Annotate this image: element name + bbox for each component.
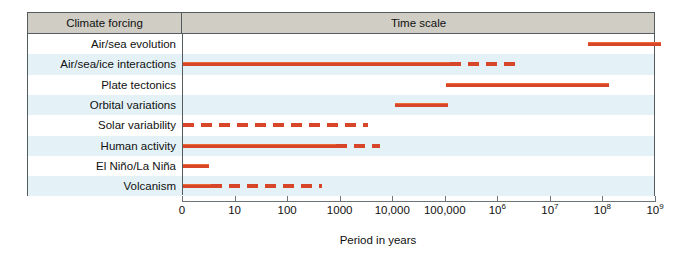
x-axis-title: Period in years [0, 234, 682, 246]
timescale-bar-solid [588, 42, 661, 46]
row-plot-area [183, 34, 654, 54]
table-row: Orbital variations [28, 95, 654, 115]
axis-tick-label: 109 [646, 204, 663, 216]
timescale-bar-solid [446, 83, 609, 87]
timescale-bar-solid [183, 184, 211, 188]
axis-tick-label: 106 [489, 204, 506, 216]
timescale-bar-solid [183, 164, 209, 168]
table-row: Solar variability [28, 115, 654, 135]
table-row: Plate tectonics [28, 75, 654, 95]
axis-tick [497, 196, 498, 202]
row-plot-area [183, 176, 654, 196]
table-row: Volcanism [28, 176, 654, 196]
row-plot-area [183, 95, 654, 115]
axis-tick [445, 196, 446, 202]
column-divider [182, 34, 183, 195]
timescale-bar-dashed [183, 123, 368, 127]
axis-tick [655, 196, 656, 202]
header-time-scale: Time scale [183, 13, 654, 33]
header-climate-forcing: Climate forcing [28, 13, 182, 33]
axis-tick-label: 100 [278, 204, 297, 216]
table-body: Air/sea evolutionAir/sea/ice interaction… [28, 34, 654, 195]
row-label: Volcanism [28, 176, 176, 196]
timescale-bar-dashed [211, 184, 322, 188]
axis-tick [392, 196, 393, 202]
row-label: Plate tectonics [28, 75, 176, 95]
x-axis-line [182, 201, 655, 202]
axis-tick [340, 196, 341, 202]
axis-tick-label: 10,000 [375, 204, 410, 216]
row-plot-area [183, 54, 654, 74]
axis-tick-label: 108 [594, 204, 611, 216]
chart-frame: Climate forcing Time scale Air/sea evolu… [27, 12, 655, 196]
climate-forcing-timescale-figure: Climate forcing Time scale Air/sea evolu… [0, 0, 682, 264]
timescale-bar-solid [183, 144, 336, 148]
row-plot-area [183, 115, 654, 135]
axis-tick [287, 196, 288, 202]
row-label: Air/sea/ice interactions [28, 54, 176, 74]
timescale-bar-dashed [450, 62, 523, 66]
axis-tick [235, 196, 236, 202]
axis-tick-label: 100,000 [424, 204, 466, 216]
axis-tick [602, 196, 603, 202]
row-plot-area [183, 136, 654, 156]
axis-tick-label: 107 [541, 204, 558, 216]
table-header-row: Climate forcing Time scale [28, 13, 654, 34]
row-plot-area [183, 75, 654, 95]
row-plot-area [183, 156, 654, 176]
x-axis: 010100100010,000100,000106107108109 Peri… [0, 196, 682, 264]
row-label: Solar variability [28, 115, 176, 135]
row-label: El Niño/La Niña [28, 156, 176, 176]
axis-tick-label: 10 [228, 204, 241, 216]
axis-tick [550, 196, 551, 202]
timescale-bar-solid [183, 62, 450, 66]
axis-tick [182, 196, 183, 202]
table-row: Air/sea evolution [28, 34, 654, 54]
timescale-bar-dashed [336, 144, 380, 148]
table-row: El Niño/La Niña [28, 156, 654, 176]
row-label: Air/sea evolution [28, 34, 176, 54]
table-row: Human activity [28, 136, 654, 156]
axis-tick-label: 1000 [327, 204, 353, 216]
timescale-bar-solid [395, 103, 448, 107]
row-label: Orbital variations [28, 95, 176, 115]
x-axis-title-text: Period in years [340, 234, 417, 246]
axis-tick-label: 0 [179, 204, 185, 216]
row-label: Human activity [28, 136, 176, 156]
table-row: Air/sea/ice interactions [28, 54, 654, 74]
